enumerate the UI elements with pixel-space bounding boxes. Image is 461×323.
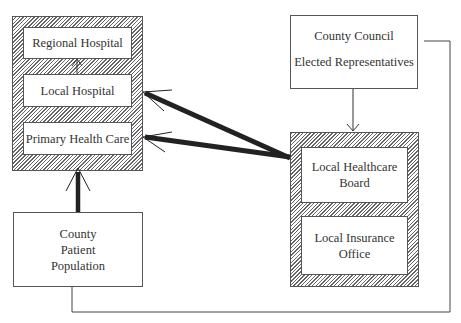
arrow-board-to-primary-care: [143, 132, 290, 157]
connector-lines: [0, 0, 461, 323]
arrow-local-to-regional: [72, 59, 82, 74]
feedback-loop-line: [72, 41, 450, 312]
arrow-patients-to-primary-care: [66, 168, 90, 212]
arrow-council-to-board: [347, 89, 359, 131]
